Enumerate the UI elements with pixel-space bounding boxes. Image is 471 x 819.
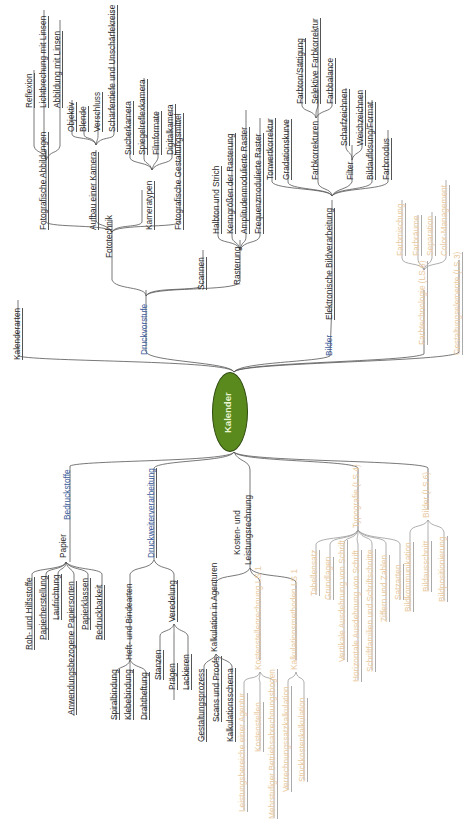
node-horizontale-ausdehnung[interactable]: Horizontale Ausdehnung von Schrift [351, 550, 362, 682]
node-farbmodus[interactable]: Farbmodus [381, 138, 392, 180]
node-roh-hilfsstoffe[interactable]: Roh- und Hilfsstoffe [24, 577, 35, 650]
node-abbildung-linsen[interactable]: Abbildung mit Linsen [52, 31, 63, 108]
node-papier[interactable]: Papier [58, 534, 68, 558]
node-scannen[interactable]: Scannen [196, 257, 207, 290]
node-elektronische-bildverarbeitung[interactable]: Elektronische Bildverarbeitung [324, 208, 335, 320]
node-ziffern-zahlen[interactable]: Ziffern und Zahlen [379, 555, 390, 622]
node-farbbalance[interactable]: Farbbalance [325, 58, 336, 104]
node-papierklassen[interactable]: Papierklassen [80, 578, 91, 630]
node-spiralbindung[interactable]: Spiralbindung [109, 669, 120, 720]
node-kenngroessen[interactable]: Kenngrößen der Rasterung [225, 133, 236, 234]
node-heft-bindearten[interactable]: Heft- und Bindearten [124, 583, 134, 660]
node-frequenzmoduliert[interactable]: Frequenzmodulierte Raster [253, 133, 264, 234]
node-klebebindung[interactable]: Klebebindung [123, 669, 134, 720]
node-kosten-line2[interactable]: Leistungsrechnung [243, 495, 253, 565]
node-lackieren[interactable]: Lackieren [181, 654, 192, 690]
node-scans-proofs[interactable]: Scans und Proofs [211, 657, 222, 723]
node-bedruckbarkeit[interactable]: Bedruckbarkeit [94, 585, 105, 640]
node-scharfzeichnen[interactable]: Scharfzeichnen [339, 89, 350, 146]
node-praegen[interactable]: Prägen [167, 663, 178, 690]
node-typografie[interactable]: Typografie (LS 4) [351, 464, 361, 528]
node-bildkommunikation[interactable]: Bildkommunikation [403, 542, 414, 612]
node-blende[interactable]: Blende [78, 106, 89, 132]
node-aufbau-kamera[interactable]: Aufbau einer Kamera [88, 152, 99, 230]
node-verschluss[interactable]: Verschluss [92, 92, 103, 132]
node-gestaltungsprozess[interactable]: Gestaltungsprozess [196, 669, 207, 742]
node-druckvorstufe[interactable]: Druckvorstufe [139, 304, 149, 355]
node-bildaufloesung[interactable]: Bildauflösung/Format [365, 102, 376, 180]
node-halbton[interactable]: Halbton und Strich [211, 166, 222, 234]
node-tonwertkorrektur[interactable]: Tonwertkorrektur [265, 118, 276, 180]
node-kalkulation-agenturen[interactable]: Kalkulation in Agenturen [209, 563, 219, 653]
node-objektiv[interactable]: Objektiv [66, 102, 77, 132]
node-bildausschnitt[interactable]: Bildausschnitt [421, 541, 432, 592]
node-bildpositionierung[interactable]: Bildpositionierung [437, 537, 448, 603]
node-papiersorten[interactable]: Anwendungsbezogene Papiersorten [66, 581, 77, 715]
node-veredelung[interactable]: Veredelung [167, 580, 178, 622]
node-amplitudenmoduliert[interactable]: Amplitudenmodulierte Raster [239, 127, 250, 234]
node-kostenstellenrechnung[interactable]: Kostenstellenrechnung LS 1 [253, 566, 263, 670]
node-farbraeume[interactable]: Farbräume [411, 215, 422, 256]
node-gestaltungselemente[interactable]: Gestaltungselemente (LS 3) [452, 252, 463, 355]
node-fototechnik[interactable]: Fototechnik [104, 215, 114, 258]
node-fotografische-abbildungen[interactable]: Fotografische Abbildungen [38, 132, 49, 230]
node-verrechnungssatzkalkulation[interactable]: Verrechnungssatzkalkulation [281, 686, 292, 792]
node-kalkulationsschema[interactable]: Kalkulationsschema [225, 668, 236, 742]
node-kosten-line1[interactable]: Kosten- und [232, 510, 242, 555]
node-reflexion[interactable]: Reflexion [24, 73, 35, 108]
node-gradationskurve[interactable]: Gradationskurve [281, 119, 292, 180]
node-bilder[interactable]: Bilder [324, 335, 334, 356]
node-schaerfentiefe[interactable]: Schärfentiefe und Unschärfekreise [107, 5, 118, 132]
node-lichtbrechung[interactable]: Lichtbrechung mit Linsen [38, 16, 49, 108]
mindmap-canvas: Kalender Kalenderarten Druckvorstufe Fot… [0, 0, 471, 819]
node-druckweiterverarbeitung[interactable]: Druckweiterverarbeitung [146, 468, 157, 558]
node-selektive-farbkorrektur[interactable]: Selektive Farbkorrektur [310, 18, 321, 104]
node-schriftfamilien[interactable]: Schriftfamilien und Schriftschnitte [365, 549, 376, 672]
node-leistungsbereiche[interactable]: Leistungsbereiche einer Agentur [237, 693, 248, 812]
node-bedruckstoffe[interactable]: Bedruckstoffe [62, 469, 72, 520]
node-laufrichtung[interactable]: Laufrichtung [51, 574, 62, 620]
node-kalenderarten[interactable]: Kalenderarten [12, 308, 23, 360]
node-separation[interactable]: Separation [425, 216, 436, 256]
node-kostenstellen[interactable]: Kostenstellen [253, 702, 264, 752]
node-spiegelreflexkamera[interactable]: Spiegelreflexkamera [137, 79, 148, 155]
node-tabellensatz[interactable]: Tabellensatz [309, 550, 320, 596]
node-rasterung[interactable]: Rasterung [232, 247, 242, 285]
node-stanzen[interactable]: Stanzen [153, 650, 164, 680]
node-filmformate[interactable]: Filmformate [151, 111, 162, 155]
node-drahtheftung[interactable]: Drahtheftung [139, 672, 150, 720]
node-grundlagen[interactable]: Grundlagen [323, 557, 334, 600]
node-kameratypen[interactable]: Kameratypen [144, 181, 155, 230]
node-farbkorrekturen[interactable]: Farbkorrekturen [310, 121, 320, 180]
node-kalkulationsmethoden[interactable]: Kalkulationsmethoden LS 1 [289, 569, 299, 670]
node-gestaltungsmittel[interactable]: Fotografische Gestaltungsmittel [173, 113, 184, 230]
node-farbmischung[interactable]: Farbmischung [395, 203, 406, 256]
center-node-label: Kalender [222, 392, 233, 433]
node-papierherstellung[interactable]: Papierherstellung [38, 575, 49, 640]
node-vertikale-ausdehnung[interactable]: Vertikale Ausdehnung von Schrift [337, 540, 348, 662]
node-filter[interactable]: Filter [345, 162, 355, 180]
node-bilder-ls6[interactable]: Bilder (LS 6) [421, 472, 431, 518]
node-stueckkostenkalkulation[interactable]: Stückkostenkalkulation [297, 698, 308, 782]
node-betriebsabrechnungsbogen[interactable]: Mehrstufiger Betriebsabrechnungsbogen [267, 669, 278, 819]
node-color-management[interactable]: Color-Management [439, 185, 450, 256]
node-farbton-saettigung[interactable]: Farbton/Sättigung [295, 38, 306, 104]
node-sucherkamera[interactable]: Sucherkamera [123, 101, 134, 155]
node-farbtechnologie[interactable]: Farbtechnologie (LS 6) [417, 261, 428, 345]
